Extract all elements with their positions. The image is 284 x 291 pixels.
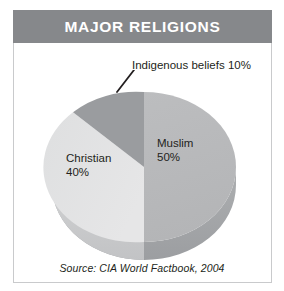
page-title: MAJOR RELIGIONS (64, 19, 220, 35)
chart-panel (13, 43, 272, 283)
chart-title-bar: MAJOR RELIGIONS (13, 10, 272, 43)
source-caption: Source: CIA World Factbook, 2004 (0, 262, 284, 274)
major-religions-figure: MAJOR RELIGIONS (0, 0, 284, 291)
